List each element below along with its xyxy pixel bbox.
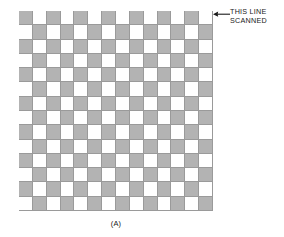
checkerboard-cell	[116, 82, 130, 96]
checkerboard-cell	[171, 54, 185, 68]
checkerboard-cell	[199, 182, 213, 196]
checkerboard-cell	[171, 40, 185, 54]
checkerboard-cell	[19, 125, 33, 139]
checkerboard-cell	[88, 197, 102, 211]
checkerboard-cell	[158, 40, 172, 54]
checkerboard-cell	[61, 68, 75, 82]
checkerboard-cell	[116, 125, 130, 139]
checkerboard-cell	[144, 82, 158, 96]
checkerboard-cell	[33, 25, 47, 39]
checkerboard-cell	[61, 40, 75, 54]
checkerboard-cell	[158, 11, 172, 25]
checkerboard-cell	[19, 140, 33, 154]
checkerboard-cell	[102, 97, 116, 111]
checkerboard-cell	[199, 197, 213, 211]
checkerboard-cell	[171, 168, 185, 182]
checkerboard-cell	[116, 197, 130, 211]
checkerboard-cell	[33, 82, 47, 96]
checkerboard-cell	[47, 168, 61, 182]
checkerboard-cell	[130, 154, 144, 168]
checkerboard-cell	[102, 168, 116, 182]
checkerboard-cell	[33, 154, 47, 168]
checkerboard-cell	[33, 97, 47, 111]
checkerboard-cell	[88, 68, 102, 82]
checkerboard-cell	[130, 11, 144, 25]
checkerboard-cell	[185, 25, 199, 39]
checkerboard-cell	[144, 68, 158, 82]
checkerboard-cell	[19, 68, 33, 82]
checkerboard-cell	[19, 197, 33, 211]
checkerboard-cell	[144, 97, 158, 111]
checkerboard-cell	[19, 11, 33, 25]
checkerboard-cell	[185, 168, 199, 182]
checkerboard-cell	[185, 111, 199, 125]
checkerboard-cell	[144, 197, 158, 211]
checkerboard-cell	[47, 54, 61, 68]
checkerboard-cell	[116, 154, 130, 168]
checkerboard-cell	[171, 154, 185, 168]
checkerboard-cell	[185, 197, 199, 211]
checkerboard-cell	[102, 54, 116, 68]
checkerboard-cell	[130, 82, 144, 96]
checkerboard-cell	[61, 11, 75, 25]
checkerboard-cell	[102, 197, 116, 211]
checkerboard-cell	[74, 168, 88, 182]
checkerboard-cell	[199, 168, 213, 182]
checkerboard-cell	[19, 182, 33, 196]
checkerboard-cell	[171, 25, 185, 39]
checkerboard-cell	[61, 140, 75, 154]
checkerboard-cell	[199, 111, 213, 125]
checkerboard-cell	[61, 125, 75, 139]
checkerboard-cell	[144, 40, 158, 54]
checkerboard-cell	[102, 140, 116, 154]
checkerboard-cell	[102, 82, 116, 96]
checkerboard-cell	[88, 182, 102, 196]
checkerboard-cell	[144, 168, 158, 182]
checkerboard-cell	[33, 197, 47, 211]
checkerboard-cell	[199, 154, 213, 168]
checkerboard-cell	[74, 111, 88, 125]
checkerboard-cell	[19, 154, 33, 168]
checkerboard-cell	[158, 54, 172, 68]
checkerboard-cell	[130, 125, 144, 139]
checkerboard-cell	[158, 68, 172, 82]
checkerboard-cell	[116, 54, 130, 68]
checkerboard-cell	[144, 154, 158, 168]
checkerboard-cell	[74, 40, 88, 54]
checkerboard-cell	[130, 97, 144, 111]
checkerboard-cell	[116, 25, 130, 39]
checkerboard-cell	[158, 97, 172, 111]
checkerboard-cell	[185, 154, 199, 168]
checkerboard-cell	[116, 97, 130, 111]
checkerboard-cell	[130, 54, 144, 68]
checkerboard-cell	[199, 54, 213, 68]
checkerboard-cell	[185, 40, 199, 54]
checkerboard-cell	[61, 197, 75, 211]
checkerboard-cell	[88, 168, 102, 182]
checkerboard-cell	[171, 111, 185, 125]
checkerboard-cell	[144, 25, 158, 39]
checkerboard-cell	[61, 54, 75, 68]
checkerboard-cell	[88, 54, 102, 68]
checkerboard-cell	[19, 25, 33, 39]
checkerboard-cell	[61, 97, 75, 111]
checkerboard-cell	[171, 68, 185, 82]
checkerboard-cell	[199, 68, 213, 82]
checkerboard-cell	[88, 25, 102, 39]
checkerboard-cell	[199, 97, 213, 111]
checkerboard-cell	[74, 125, 88, 139]
arrow-left-icon	[213, 10, 231, 19]
checkerboard-cell	[74, 68, 88, 82]
checkerboard-cell	[130, 25, 144, 39]
checkerboard-cell	[171, 140, 185, 154]
checkerboard-cell	[47, 182, 61, 196]
checkerboard-cell	[19, 82, 33, 96]
checkerboard-cell	[102, 125, 116, 139]
checkerboard-cell	[47, 97, 61, 111]
checkerboard-cell	[47, 125, 61, 139]
checkerboard-cell	[88, 40, 102, 54]
checkerboard-cell	[158, 168, 172, 182]
checkerboard-cell	[130, 111, 144, 125]
checkerboard-cell	[185, 97, 199, 111]
checkerboard-cell	[47, 11, 61, 25]
